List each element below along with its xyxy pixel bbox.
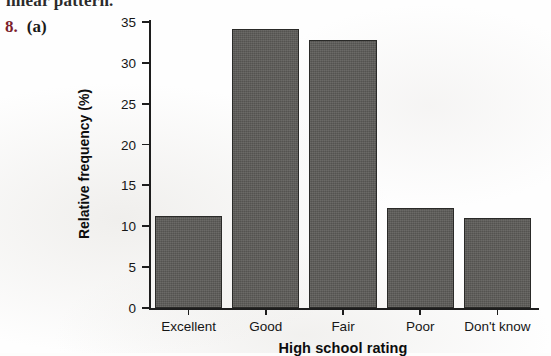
exercise-part: (a) <box>27 17 47 36</box>
y-axis-tick <box>142 62 149 64</box>
x-axis-tick <box>419 308 421 315</box>
bar-series <box>150 22 536 308</box>
y-axis-tick-label: 20 <box>86 137 136 152</box>
y-axis-tick <box>142 184 149 186</box>
y-axis-tick-label: 30 <box>86 55 136 70</box>
x-axis-tick-label: Fair <box>331 319 354 334</box>
bar <box>387 208 454 309</box>
exercise-label: 8.(a) <box>5 17 47 37</box>
exercise-number: 8. <box>5 17 18 36</box>
y-axis-tick <box>142 225 149 227</box>
bar <box>464 218 531 308</box>
x-axis-tick <box>342 308 344 315</box>
plot-area <box>150 22 536 308</box>
bar <box>155 216 222 308</box>
x-axis-tick-label: Good <box>249 319 282 334</box>
y-axis-title: Relative frequency (%) <box>76 89 92 239</box>
y-axis-tick-label: 5 <box>86 260 136 275</box>
x-axis-tick-label: Excellent <box>161 319 216 334</box>
y-axis-tick <box>142 103 149 105</box>
y-axis-tick-label: 25 <box>86 96 136 111</box>
x-axis-tick <box>497 308 499 315</box>
y-axis-tick-label: 0 <box>86 301 136 316</box>
y-axis-tick-label: 35 <box>86 15 136 30</box>
cut-off-body-text: linear pattern. <box>6 0 114 11</box>
x-axis-tick <box>265 308 267 315</box>
bar <box>232 29 299 308</box>
x-axis-tick-label: Don't know <box>464 319 530 334</box>
bar-chart: Relative frequency (%) 05101520253035 Ex… <box>86 14 541 350</box>
y-axis-tick <box>142 144 149 146</box>
bar <box>309 40 376 308</box>
x-axis-line <box>149 308 539 310</box>
y-axis-tick <box>142 266 149 268</box>
y-axis-tick <box>142 21 149 23</box>
y-axis-tick-label: 10 <box>86 219 136 234</box>
x-axis-title: High school rating <box>150 340 536 356</box>
x-axis-tick-label: Poor <box>406 319 435 334</box>
x-axis-tick <box>188 308 190 315</box>
y-axis-tick <box>142 307 149 309</box>
y-axis-tick-label: 15 <box>86 178 136 193</box>
